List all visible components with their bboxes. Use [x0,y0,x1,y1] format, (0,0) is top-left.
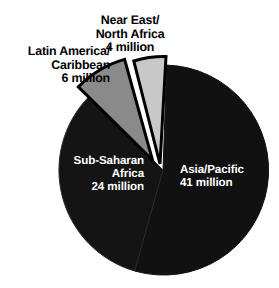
pie-chart-figure: Near East/ North Africa 4 million Latin … [0,0,279,288]
slice-label-latin-america-caribbean: Latin America/ Caribbean 6 million [2,45,110,86]
slice-label-asia-pacific: Asia/Pacific 41 million [180,163,274,189]
slice-label-sub-saharan-africa: Sub-Saharan Africa 24 million [48,154,144,194]
